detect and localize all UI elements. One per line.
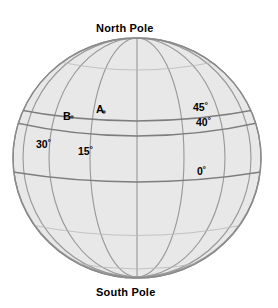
longitude-30-label: 30˚ [36,138,51,150]
latitude-45-label: 45˚ [193,101,208,113]
longitude-15-label: 15˚ [78,145,93,157]
globe-diagram: North Pole South Pole 45˚ 40˚ 0˚ 30˚ 15˚… [0,0,278,308]
south-pole-label: South Pole [96,286,155,298]
globe-graticule-svg [0,0,278,308]
latitude-40-label: 40˚ [196,116,211,128]
north-pole-label: North Pole [96,22,154,34]
longitude-0-label: 0˚ [197,165,206,177]
point-b-label: B [63,110,71,122]
point-a-label: A [96,103,104,115]
